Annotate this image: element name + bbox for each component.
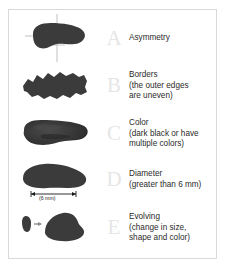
mole-shape-irregular-border	[23, 72, 87, 99]
lesion-illustration-color	[13, 110, 103, 158]
row-title-diameter: Diameter	[129, 169, 215, 180]
lesion-illustration-diameter: (6 mm)	[13, 156, 103, 204]
measure-label-6mm: (6 mm)	[39, 195, 55, 201]
lesion-illustration-asymmetry	[13, 14, 103, 62]
chart-row-evolving: E Evolving (change in size, shape and co…	[9, 204, 216, 252]
row-sub-diameter-1: (greater than 6 mm)	[129, 180, 215, 191]
row-letter-d: D	[101, 156, 127, 204]
row-title-asymmetry: Asymmetry	[129, 33, 215, 44]
mole-shape-large-diameter	[23, 164, 86, 188]
row-sub-color-1: (dark black or have	[129, 129, 215, 140]
chart-row-color: C Color (dark black or have multiple col…	[9, 110, 216, 158]
row-sub-evolving-2: shape and color)	[129, 233, 215, 244]
mole-shape-large-after	[45, 213, 84, 241]
abcde-chart-frame: A Asymmetry B Borders (the outer edges a…	[8, 9, 217, 259]
lesion-illustration-evolving	[13, 204, 103, 252]
row-text-borders: Borders (the outer edges are uneven)	[129, 62, 215, 110]
row-sub-evolving-1: (change in size,	[129, 223, 215, 234]
evolution-arrow-icon	[34, 222, 42, 226]
mole-shape-asymmetric	[33, 23, 85, 48]
row-letter-a: A	[101, 14, 127, 62]
row-title-borders: Borders	[129, 70, 215, 81]
row-title-color: Color	[129, 118, 215, 129]
mole-shape-multicolor	[24, 120, 88, 145]
row-letter-b: B	[101, 62, 127, 110]
row-text-evolving: Evolving (change in size, shape and colo…	[129, 204, 215, 252]
mole-shape-small-before	[22, 216, 31, 232]
chart-row-borders: B Borders (the outer edges are uneven)	[9, 62, 216, 110]
chart-row-diameter: (6 mm) D Diameter (greater than 6 mm)	[9, 156, 216, 204]
row-sub-color-2: multiple colors)	[129, 139, 215, 150]
row-title-evolving: Evolving	[129, 212, 215, 223]
row-text-diameter: Diameter (greater than 6 mm)	[129, 156, 215, 204]
row-letter-c: C	[101, 110, 127, 158]
lesion-illustration-borders	[13, 62, 103, 110]
row-text-asymmetry: Asymmetry	[129, 14, 215, 62]
row-sub-borders-1: (the outer edges	[129, 81, 215, 92]
row-text-color: Color (dark black or have multiple color…	[129, 110, 215, 158]
chart-row-asymmetry: A Asymmetry	[9, 14, 216, 62]
row-letter-e: E	[101, 204, 127, 252]
row-sub-borders-2: are uneven)	[129, 91, 215, 102]
